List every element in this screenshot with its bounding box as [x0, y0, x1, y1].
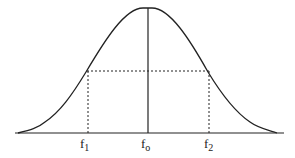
- label-f1: f1: [80, 137, 89, 153]
- bell-curve-diagram: [0, 0, 295, 158]
- label-f0: fo: [141, 137, 150, 153]
- label-f2: f2: [204, 137, 213, 153]
